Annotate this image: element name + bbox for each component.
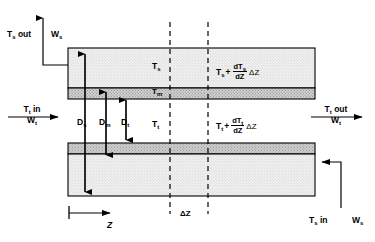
element-length-label: ΔZ xyxy=(180,210,191,218)
z-axis-label: Z xyxy=(107,221,112,230)
tube-outlet-expression: Tt + dTt dZ ΔZ xyxy=(216,117,257,135)
shell-inlet-flow-label: Ws xyxy=(352,216,363,225)
shell-outlet-pipe xyxy=(43,18,68,65)
heat-exchanger-diagram: Ts out Ws Tt in Wt Tt out Wt Ts in Ws Ts… xyxy=(0,0,375,242)
shell-fluid-region xyxy=(68,48,315,88)
metal-temperature-label: Tm xyxy=(152,88,162,96)
shell-temperature-label: Ts xyxy=(152,62,161,71)
metal-diameter-label: Dm xyxy=(99,118,110,127)
shell-gradient-fraction: dTs dZ xyxy=(233,63,248,81)
shell-inlet-temperature-label: Ts in xyxy=(309,216,327,225)
tube-diameter-label: Dt xyxy=(121,118,129,127)
shell-diameter-label: Ds xyxy=(77,118,86,127)
tube-outlet-label: Tt out Wt xyxy=(313,104,359,127)
shell-body xyxy=(68,48,315,99)
shell-inlet-pipe xyxy=(322,162,341,208)
z-axis xyxy=(69,206,110,219)
tube-gradient-fraction: dTt dZ xyxy=(231,117,244,135)
tube-temperature-label: Tt xyxy=(152,120,159,129)
shell-outlet-expression: Ts + dTs dZ ΔZ xyxy=(216,63,259,81)
tube-fluid-region xyxy=(68,154,315,196)
tube-body xyxy=(68,143,315,196)
metal-wall-lower xyxy=(68,143,315,154)
shell-outlet-temperature-label: Ts out xyxy=(7,30,31,39)
shell-outlet-flow-label: Ws xyxy=(51,30,62,39)
metal-wall-upper xyxy=(68,88,315,99)
tube-inlet-label: Tt in Wt xyxy=(10,104,54,127)
